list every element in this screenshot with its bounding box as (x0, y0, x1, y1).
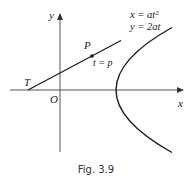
point-t-label: T (24, 77, 30, 88)
parameter-label: t = p (93, 58, 113, 68)
point-p-label: P (84, 40, 91, 51)
x-axis-label: x (178, 98, 183, 109)
y-axis-label: y (49, 10, 54, 21)
equation-x: x = at² (130, 10, 158, 21)
parabola-tangent-figure: y x O T P t = p x = at² y = 2at Fig. 3.9 (0, 0, 192, 182)
figure-caption: Fig. 3.9 (0, 164, 192, 175)
equation-y: y = 2at (130, 22, 160, 33)
origin-label: O (50, 94, 58, 105)
diagram-canvas (0, 0, 192, 182)
